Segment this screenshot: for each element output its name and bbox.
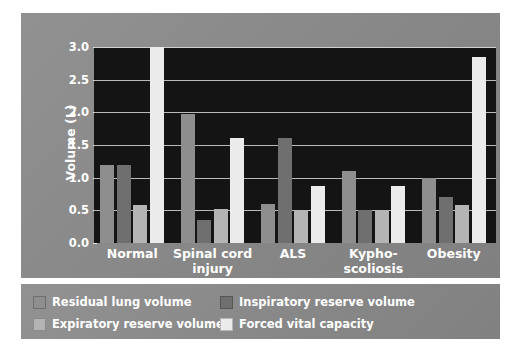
x-axis-label-line: scoliosis — [323, 261, 423, 276]
x-axis-label-line: injury — [163, 261, 263, 276]
bar — [278, 138, 292, 243]
legend-item: Inspiratory reserve volume — [220, 294, 415, 310]
bars-layer — [94, 47, 496, 243]
legend-swatch — [220, 318, 233, 331]
figure-root: Volume (L) 0.00.51.01.52.02.53.0 NormalS… — [0, 0, 521, 360]
bar — [358, 210, 372, 243]
legend-label: Inspiratory reserve volume — [239, 295, 415, 309]
x-axis-label: Obesity — [404, 246, 504, 261]
x-axis-label-line: Kypho- — [349, 246, 398, 261]
y-axis-tick-mark — [93, 243, 97, 244]
legend-swatch — [33, 296, 46, 309]
y-axis-tick-label: 1.0 — [69, 171, 89, 185]
bar — [197, 220, 211, 243]
bar — [117, 165, 131, 243]
bar — [181, 114, 195, 243]
bar — [455, 205, 469, 243]
bar — [261, 204, 275, 243]
x-axis-label-line: Obesity — [427, 246, 481, 261]
bar — [311, 186, 325, 243]
bar — [375, 210, 389, 243]
legend-item: Expiratory reserve volume — [33, 316, 224, 332]
bar — [133, 205, 147, 243]
plot-area — [94, 47, 496, 243]
bar — [230, 138, 244, 243]
legend-panel: Residual lung volumeInspiratory reserve … — [21, 284, 500, 339]
bar — [391, 186, 405, 243]
y-axis-ticks: 0.00.51.01.52.02.53.0 — [51, 47, 89, 243]
y-axis-tick-label: 1.5 — [69, 138, 89, 152]
legend-swatch — [220, 296, 233, 309]
y-axis-tick-label: 2.5 — [69, 73, 89, 87]
x-axis-label-line: Normal — [107, 246, 158, 261]
chart-panel: Volume (L) 0.00.51.01.52.02.53.0 NormalS… — [21, 13, 500, 278]
x-axis-label-line: ALS — [280, 246, 307, 261]
legend-item: Residual lung volume — [33, 294, 191, 310]
legend-label: Expiratory reserve volume — [52, 317, 224, 331]
bar — [472, 57, 486, 243]
bar — [150, 47, 164, 243]
legend-label: Residual lung volume — [52, 295, 191, 309]
legend-label: Forced vital capacity — [239, 317, 374, 331]
y-axis-tick-label: 0.5 — [69, 203, 89, 217]
bar — [294, 210, 308, 243]
bar — [214, 209, 228, 243]
y-axis-tick-label: 3.0 — [69, 40, 89, 54]
y-axis-tick-label: 2.0 — [69, 105, 89, 119]
bar — [342, 171, 356, 243]
x-axis-label-line: Spinal cord — [173, 246, 252, 261]
bar — [439, 197, 453, 243]
legend-swatch — [33, 318, 46, 331]
legend-item: Forced vital capacity — [220, 316, 374, 332]
bar — [422, 178, 436, 243]
bar — [100, 165, 114, 243]
